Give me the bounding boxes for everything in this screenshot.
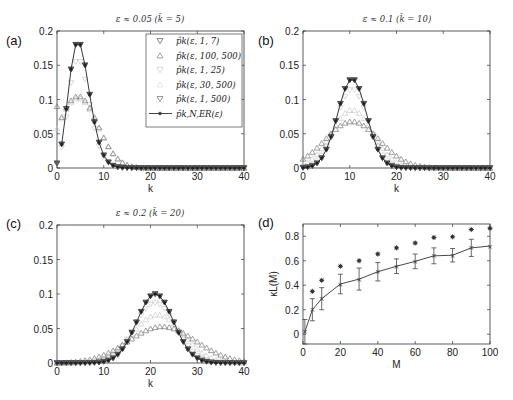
x-axis-label: k [148, 183, 154, 194]
y-tick-label: 0.2 [285, 305, 299, 316]
x-tick-label: 40 [238, 171, 250, 182]
svg-text:×: × [431, 252, 437, 260]
x-tick-label: 40 [372, 347, 384, 358]
x-tick-label: 20 [391, 171, 403, 182]
legend-label: p̂k(ε, 30, 500) [176, 80, 236, 90]
legend-label: p̂k(ε, 1, 500) [176, 94, 230, 104]
legend-label: p̂k(ε, 100, 500) [176, 51, 241, 61]
x-tick-label: 100 [482, 347, 499, 358]
legend-label: p̂k(ε, 1, 7) [176, 36, 219, 46]
y-tick-label: 0.1 [39, 95, 53, 106]
x-tick-label: 10 [98, 366, 110, 377]
x-tick-label: 0 [54, 171, 60, 182]
axes-frame [303, 224, 490, 344]
y-tick-label: 0.05 [280, 129, 300, 140]
panel-d: (d) 02040608010000.20.40.60.8MκL(M)×××××… [258, 215, 499, 370]
x-tick-label: 80 [447, 347, 459, 358]
svg-text:×: × [412, 258, 418, 266]
x-tick-label: 10 [344, 171, 356, 182]
panel-label-a: (a) [6, 33, 22, 48]
panel-c: (c) ε ≈ 0.2 (k̄ = 20) 01020304000.050.10… [6, 207, 250, 389]
x-tick-label: 20 [145, 171, 157, 182]
y-tick-label: 0.05 [34, 129, 54, 140]
panel-label-c: (c) [6, 216, 21, 231]
er-series [55, 292, 245, 364]
panel-title-a: ε ≈ 0.05 (k̄ = 5) [116, 13, 184, 24]
legend-label: p̂k,N,ER(ε) [176, 109, 223, 119]
svg-text:×: × [356, 276, 362, 284]
svg-text:×: × [487, 243, 493, 251]
svg-text:×: × [302, 328, 308, 336]
y-tick-label: 0 [293, 163, 299, 174]
x-axis-label: k [148, 378, 154, 389]
x-axis-label: k [394, 183, 400, 194]
plot-area-d: 02040608010000.20.40.60.8MκL(M)×××××××××… [268, 224, 499, 370]
x-tick-label: 30 [438, 171, 450, 182]
figure: (a) ε ≈ 0.05 (k̄ = 5) 01020304000.050.10… [0, 0, 513, 400]
x-tick-label: 20 [335, 347, 347, 358]
series-markers [300, 78, 493, 171]
panel-label-b: (b) [258, 33, 274, 48]
x-tick-label: 0 [54, 366, 60, 377]
y-tick-label: 0.05 [34, 324, 54, 335]
series-markers [300, 78, 493, 171]
axes-frame [303, 31, 490, 168]
panel-label-d: (d) [258, 215, 274, 230]
svg-text:×: × [319, 295, 325, 303]
y-tick-label: 0 [47, 358, 53, 369]
x-tick-label: 60 [410, 347, 422, 358]
x-tick-label: 40 [238, 366, 250, 377]
panel-b: (b) ε ≈ 0.1 (k̄ = 10) 01020304000.050.10… [258, 13, 496, 194]
y-tick-label: 0.15 [34, 60, 54, 71]
y-tick-label: 0.15 [280, 60, 300, 71]
y-tick-label: 0 [293, 329, 299, 340]
y-tick-label: 0.8 [285, 231, 299, 242]
panel-title-b: ε ≈ 0.1 (k̄ = 10) [363, 13, 431, 24]
plot-area-b: 01020304000.050.10.150.2k [280, 26, 496, 194]
x-tick-label: 30 [192, 366, 204, 377]
legend: p̂k(ε, 1, 7)p̂k(ε, 100, 500)p̂k(ε, 1, 25… [146, 34, 242, 127]
series-markers [54, 324, 247, 365]
y-tick-label: 0.4 [285, 280, 299, 291]
x-axis-label: M [392, 359, 400, 370]
legend-label: p̂k(ε, 1, 25) [176, 65, 225, 75]
x-tick-label: 30 [192, 171, 204, 182]
x-tick-label: 0 [300, 171, 306, 182]
y-tick-label: 0.2 [285, 26, 299, 37]
x-tick-label: 0 [300, 347, 306, 358]
svg-text:×: × [450, 252, 456, 260]
x-tick-label: 10 [98, 171, 110, 182]
svg-text:×: × [468, 244, 474, 252]
x-tick-label: 20 [145, 366, 157, 377]
y-tick-label: 0.1 [285, 95, 299, 106]
series-markers [300, 108, 493, 171]
mean-series: ×××××××××××× [302, 239, 493, 344]
y-tick-label: 0.6 [285, 256, 299, 267]
y-tick-label: 0.2 [39, 26, 53, 37]
series-markers [54, 292, 247, 366]
y-axis-label: κL(M) [268, 271, 279, 297]
x-tick-label: 40 [484, 171, 496, 182]
svg-text:×: × [394, 263, 400, 271]
series-markers [54, 301, 247, 366]
y-tick-label: 0.1 [39, 289, 53, 300]
series-markers [54, 292, 247, 366]
y-tick-label: 0 [47, 163, 53, 174]
plot-area-c: 01020304000.050.10.150.2k [34, 220, 250, 389]
y-tick-label: 0.15 [34, 255, 54, 266]
panel-title-c: ε ≈ 0.2 (k̄ = 20) [116, 207, 184, 218]
svg-text:×: × [375, 268, 381, 276]
er-series [301, 79, 491, 170]
svg-text:×: × [309, 306, 315, 314]
y-tick-label: 0.2 [39, 220, 53, 231]
svg-text:×: × [337, 281, 343, 289]
